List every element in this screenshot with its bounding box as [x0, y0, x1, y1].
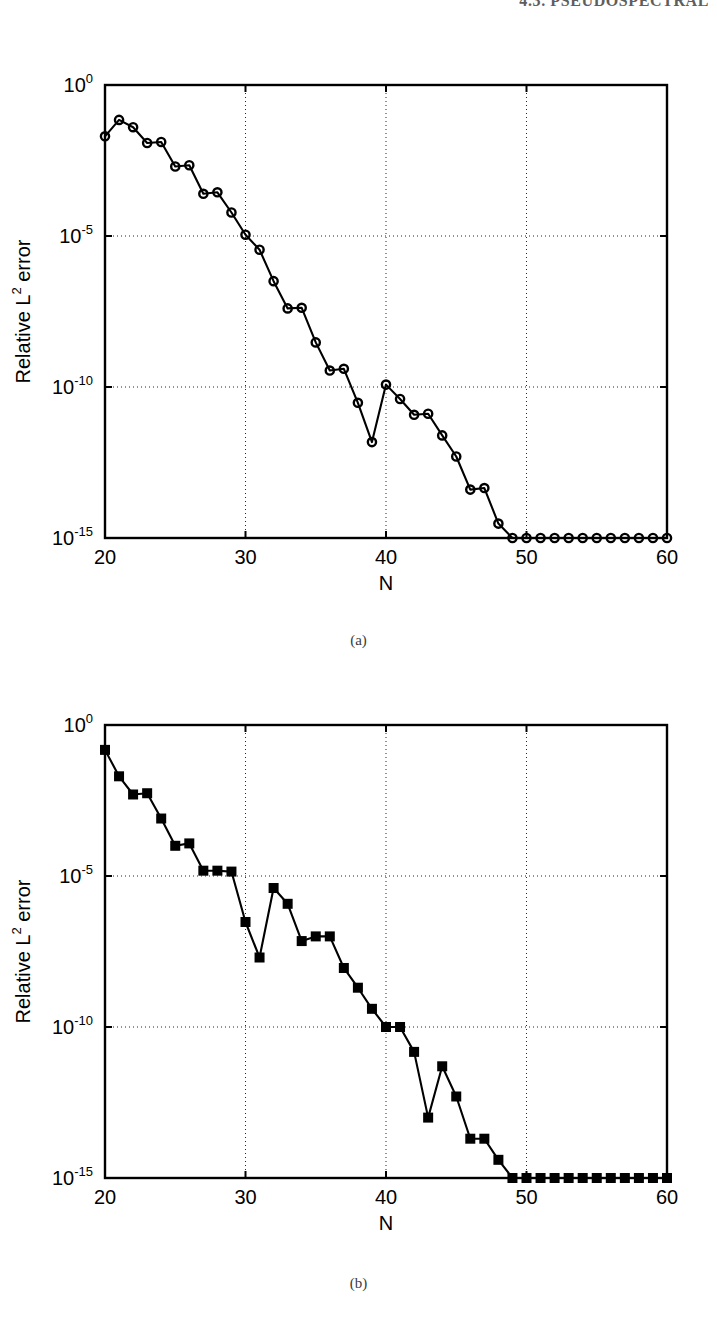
data-point-marker — [115, 772, 123, 780]
y-axis-title: Relative L2 error — [9, 239, 34, 383]
x-tick-label: 50 — [515, 1186, 537, 1208]
plot-frame — [105, 85, 667, 538]
plot-area-a: 2030405060N10010-510-1010-15Relative L2 … — [0, 60, 717, 580]
data-point-marker — [382, 1023, 390, 1031]
y-tick-exponent: -5 — [81, 862, 93, 877]
x-axis-title: N — [379, 1212, 393, 1234]
y-axis-title-main: Relative L — [12, 295, 34, 384]
y-tick-exponent: 0 — [86, 71, 93, 86]
y-tick-label: 10-10 — [52, 1013, 93, 1038]
data-point-marker — [340, 964, 348, 972]
y-tick-label: 10-15 — [52, 524, 93, 549]
chart-a: 2030405060N10010-510-1010-15Relative L2 … — [0, 60, 717, 620]
data-point-marker — [227, 867, 235, 875]
y-tick-base: 10 — [64, 74, 86, 96]
y-tick-exponent: 0 — [86, 711, 93, 726]
figure-b: 2030405060N10010-510-1010-15Relative L2 … — [0, 700, 717, 1320]
y-tick-base: 10 — [52, 527, 74, 549]
y-axis-title-tail: error — [12, 239, 34, 287]
gridlines — [105, 85, 667, 538]
x-tick-label: 50 — [515, 546, 537, 568]
data-point-marker — [298, 937, 306, 945]
data-point-marker — [143, 789, 151, 797]
y-tick-base: 10 — [59, 865, 81, 887]
y-tick-base: 10 — [52, 376, 74, 398]
data-point-marker — [466, 1135, 474, 1143]
y-axis-title-text: Relative L2 error — [9, 879, 34, 1023]
y-axis-title-sup: 2 — [9, 927, 24, 934]
y-tick-label: 10-5 — [59, 222, 93, 247]
x-tick-label: 30 — [234, 1186, 256, 1208]
data-point-marker — [312, 932, 320, 940]
x-axis-title: N — [379, 572, 393, 594]
data-point-marker — [171, 842, 179, 850]
y-tick-label: 10-10 — [52, 373, 93, 398]
y-tick-base: 10 — [52, 1016, 74, 1038]
data-point-marker — [129, 790, 137, 798]
y-tick-base: 10 — [64, 714, 86, 736]
x-tick-label: 30 — [234, 546, 256, 568]
y-axis-title-main: Relative L — [12, 935, 34, 1024]
data-point-marker — [269, 884, 277, 892]
data-point-marker — [199, 866, 207, 874]
data-point-marker — [452, 1092, 460, 1100]
y-tick-exponent: -5 — [81, 222, 93, 237]
y-axis: 10010-510-1010-15Relative L2 error — [9, 71, 667, 549]
data-point-marker — [396, 1023, 404, 1031]
data-series-line — [105, 120, 667, 538]
data-point-marker — [424, 1113, 432, 1121]
data-point-marker — [213, 866, 221, 874]
gridlines — [105, 725, 667, 1178]
y-axis-title-sup: 2 — [9, 287, 24, 294]
figure-a: 2030405060N10010-510-1010-15Relative L2 … — [0, 60, 717, 680]
data-point-marker — [494, 1156, 502, 1164]
x-tick-label: 20 — [94, 1186, 116, 1208]
data-markers — [101, 116, 671, 542]
data-point-marker — [185, 839, 193, 847]
y-axis-title-text: Relative L2 error — [9, 239, 34, 383]
data-point-marker — [283, 900, 291, 908]
chart-content: 2030405060N10010-510-1010-15Relative L2 … — [9, 711, 678, 1234]
plot-area-b: 2030405060N10010-510-1010-15Relative L2 … — [0, 700, 717, 1220]
y-axis-title: Relative L2 error — [9, 879, 34, 1023]
chart-content: 2030405060N10010-510-1010-15Relative L2 … — [9, 71, 678, 594]
data-point-marker — [354, 984, 362, 992]
y-tick-base: 10 — [52, 1167, 74, 1189]
figure-caption-a: (a) — [0, 632, 717, 649]
x-tick-label: 20 — [94, 546, 116, 568]
data-point-marker — [410, 1048, 418, 1056]
y-tick-label: 10-15 — [52, 1164, 93, 1189]
data-point-marker — [157, 814, 165, 822]
data-point-marker — [480, 1135, 488, 1143]
chart-b: 2030405060N10010-510-1010-15Relative L2 … — [0, 700, 717, 1260]
data-point-marker — [241, 918, 249, 926]
y-axis: 10010-510-1010-15Relative L2 error — [9, 711, 667, 1189]
data-point-marker — [438, 1062, 446, 1070]
y-tick-label: 10-5 — [59, 862, 93, 887]
x-tick-label: 40 — [375, 546, 397, 568]
y-tick-exponent: -15 — [74, 1164, 93, 1179]
y-tick-exponent: -15 — [74, 524, 93, 539]
y-tick-exponent: -10 — [74, 1013, 93, 1028]
y-tick-base: 10 — [59, 225, 81, 247]
x-tick-label: 60 — [656, 1186, 678, 1208]
y-tick-label: 100 — [64, 711, 93, 736]
data-markers — [101, 746, 671, 1183]
page-running-header: 4.3. PSEUDOSPECTRAL — [519, 0, 709, 7]
y-axis-title-tail: error — [12, 879, 34, 927]
x-tick-label: 60 — [656, 546, 678, 568]
plot-frame — [105, 725, 667, 1178]
x-tick-label: 40 — [375, 1186, 397, 1208]
data-point-marker — [368, 1005, 376, 1013]
y-tick-label: 100 — [64, 71, 93, 96]
data-point-marker — [326, 932, 334, 940]
y-tick-exponent: -10 — [74, 373, 93, 388]
figure-caption-b: (b) — [0, 1275, 717, 1292]
data-point-marker — [255, 953, 263, 961]
